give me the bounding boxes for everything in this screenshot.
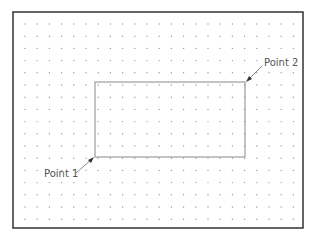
- sketch-canvas: [0, 0, 316, 240]
- point2-label: Point 2: [264, 57, 298, 68]
- grid-dots: [24, 23, 294, 220]
- point2-leader: [246, 66, 262, 82]
- rectangle-shape: [95, 82, 245, 157]
- sketch-frame: [13, 12, 303, 228]
- point1-leader: [76, 157, 94, 173]
- point1-label: Point 1: [44, 168, 78, 179]
